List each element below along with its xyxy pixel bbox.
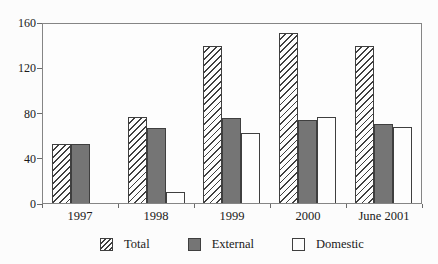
legend-label-domestic: Domestic bbox=[316, 237, 364, 251]
bar-total-june-2001 bbox=[355, 46, 374, 203]
bar-total-1999 bbox=[203, 46, 222, 203]
category-group-1999 bbox=[194, 24, 270, 203]
plot-area bbox=[42, 23, 422, 204]
bar-external-1999 bbox=[222, 118, 241, 203]
legend-item-external: External bbox=[188, 237, 254, 251]
bar-domestic-2000 bbox=[317, 117, 336, 203]
category-group-june-2001 bbox=[345, 24, 421, 203]
x-axis-tick bbox=[346, 204, 347, 208]
x-axis-tick bbox=[42, 204, 43, 208]
bar-external-1998 bbox=[147, 128, 166, 203]
bar-total-1998 bbox=[128, 117, 147, 203]
y-axis-label: 80 bbox=[2, 106, 36, 122]
legend-label-external: External bbox=[212, 237, 254, 251]
legend-swatch-total bbox=[100, 238, 113, 251]
legend-swatch-external bbox=[188, 238, 201, 251]
x-axis-tick bbox=[270, 204, 271, 208]
category-group-1997 bbox=[43, 24, 119, 203]
bar-chart-figure: 04080120160 1997199819992000June 2001 To… bbox=[0, 0, 438, 264]
x-axis-label: 1998 bbox=[118, 208, 194, 224]
x-axis-tick bbox=[194, 204, 195, 208]
category-group-1998 bbox=[119, 24, 195, 203]
x-axis-tick bbox=[422, 204, 423, 208]
x-axis-tick bbox=[118, 204, 119, 208]
legend-label-total: Total bbox=[124, 237, 150, 251]
x-axis-label: June 2001 bbox=[346, 208, 422, 224]
bar-total-1997 bbox=[52, 144, 71, 203]
category-group-2000 bbox=[270, 24, 346, 203]
y-axis-label: 160 bbox=[2, 15, 36, 31]
legend: Total External Domestic bbox=[42, 237, 422, 251]
legend-item-total: Total bbox=[100, 237, 150, 251]
x-axis-label: 2000 bbox=[270, 208, 346, 224]
bars-row bbox=[43, 24, 421, 203]
legend-item-domestic: Domestic bbox=[292, 237, 364, 251]
legend-swatch-domestic bbox=[292, 238, 305, 251]
x-axis-label: 1997 bbox=[42, 208, 118, 224]
bar-external-2000 bbox=[298, 120, 317, 203]
y-axis-label: 40 bbox=[2, 151, 36, 167]
y-axis-label: 120 bbox=[2, 60, 36, 76]
bar-domestic-june-2001 bbox=[393, 127, 412, 203]
y-axis-label: 0 bbox=[2, 196, 36, 212]
bar-domestic-1998 bbox=[166, 192, 185, 203]
bar-total-2000 bbox=[279, 33, 298, 203]
bar-external-1997 bbox=[71, 144, 90, 203]
bar-external-june-2001 bbox=[374, 124, 393, 203]
bar-domestic-1999 bbox=[241, 133, 260, 203]
x-axis-label: 1999 bbox=[194, 208, 270, 224]
